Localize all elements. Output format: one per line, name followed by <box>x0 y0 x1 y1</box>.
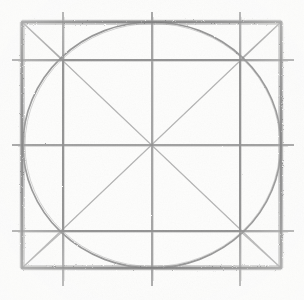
drawing-canvas: Hand drawn pencil diagram of a square co… <box>0 0 304 300</box>
corner-diagonal-bottom-right <box>240 231 281 268</box>
pencil-construction-drawing <box>0 0 304 300</box>
corner-diagonal-bottom-left <box>22 231 63 268</box>
corner-diagonal-top-left <box>22 22 63 60</box>
corner-diagonal-top-right <box>240 22 281 60</box>
